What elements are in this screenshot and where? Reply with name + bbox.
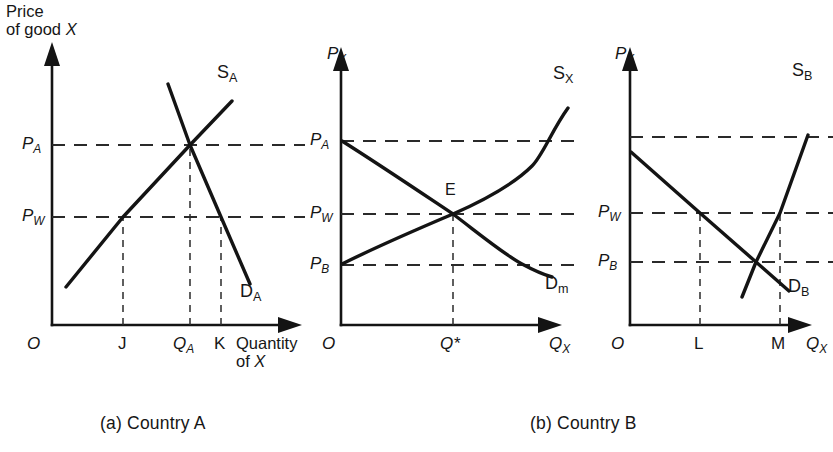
panel-a-tick-label-k: K: [214, 334, 225, 353]
panel-a-demand-curve: [168, 84, 250, 284]
panel-b-price-label-pw: PW: [310, 203, 333, 222]
panel-b-import-demand-label: Dm: [545, 273, 569, 293]
panel-b-price-label-pb: PB: [310, 254, 329, 273]
panel-a-y-axis-arrow: [44, 42, 60, 66]
panel-a-price-label-pw: PW: [22, 206, 45, 225]
panel-c-origin-label: O: [611, 334, 624, 353]
panel-a-y-axis-title-line1: Price: [6, 2, 44, 20]
panel-a-caption: (a) Country A: [100, 414, 206, 434]
panel-c-price-label-pb: PB: [598, 251, 617, 270]
panel-a-y-axis-title: Price of good X: [6, 2, 77, 39]
panel-b-export-supply-label: SX: [553, 63, 573, 83]
panel-a-graph: [44, 42, 305, 333]
panel-a-price-label-pa: PA: [22, 134, 41, 153]
panel-a-y-axis-title-line2: of good X: [6, 20, 77, 38]
panel-a-supply-label: SA: [217, 62, 237, 82]
panel-a-origin-label: O: [27, 334, 40, 353]
panel-b-caption: (b) Country B: [530, 414, 637, 434]
panel-a-x-axis-title-line2: of X: [236, 352, 265, 370]
panel-b-y-axis-title: PX: [327, 44, 346, 63]
panel-a-tick-label-j: J: [118, 334, 127, 353]
panel-c-demand-curve: [631, 152, 789, 291]
panel-c-supply-label: SB: [792, 60, 812, 80]
panel-c-tick-label-l: L: [694, 334, 703, 353]
panel-a-demand-label: DA: [240, 281, 261, 301]
panel-c-supply-curve: [742, 135, 808, 297]
panel-a-x-axis-arrow: [278, 317, 302, 333]
panel-a-x-axis-title-line1: Quantity: [236, 334, 297, 352]
panel-b-import-demand-curve: [342, 141, 552, 277]
panel-c-x-axis-arrow: [788, 317, 812, 333]
panel-b-x-axis-arrow: [538, 317, 562, 333]
panel-b-tick-label-qstar: Q*: [440, 334, 460, 353]
panel-b-price-label-pa: PA: [310, 130, 329, 149]
panel-a-tick-label-qa: QA: [173, 334, 194, 353]
panel-c-demand-label: DB: [788, 276, 809, 296]
panel-b-equilibrium-point-label: E: [445, 181, 456, 199]
panel-a-x-axis-title: Quantity of X: [236, 334, 297, 371]
panel-b-graph: [333, 47, 580, 333]
economics-diagram-figure: Price of good X Quantity of X PA PW O J …: [0, 0, 833, 452]
panel-b-origin-label: O: [322, 334, 335, 353]
panel-c-x-axis-title: QX: [806, 334, 827, 353]
panel-c-price-label-pw: PW: [598, 202, 621, 221]
diagram-canvas: [0, 0, 833, 452]
panel-a-supply-curve: [66, 101, 232, 287]
panel-c-y-axis-title: PX: [615, 44, 634, 63]
panel-c-tick-label-m: M: [771, 334, 785, 353]
panel-b-x-axis-title: QX: [549, 334, 570, 353]
